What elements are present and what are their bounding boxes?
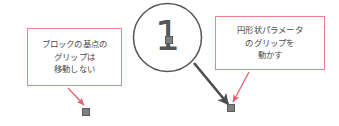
annotation-diagram: 1 ブロックの基点の グリップは 移動しない 円形状パラメータ のグリップを 動…	[0, 0, 339, 126]
note-line: 移動しない	[54, 63, 95, 76]
note-line: のグリップを	[245, 37, 294, 50]
left-callout-arrow	[68, 88, 84, 105]
block-base-point-note: ブロックの基点の グリップは 移動しない	[27, 28, 122, 86]
right-callout-arrow	[233, 72, 249, 102]
circle-center-grip[interactable]	[165, 36, 173, 44]
note-line: 動かす	[258, 49, 283, 62]
note-line: ブロックの基点の	[42, 38, 108, 51]
circular-parameter-grip[interactable]	[227, 104, 235, 112]
block-base-point-grip[interactable]	[82, 108, 90, 116]
note-line: 円形状パラメータ	[237, 24, 303, 37]
circular-parameter-note: 円形状パラメータ のグリップを 動かす	[215, 16, 325, 70]
note-line: グリップは	[54, 51, 95, 64]
